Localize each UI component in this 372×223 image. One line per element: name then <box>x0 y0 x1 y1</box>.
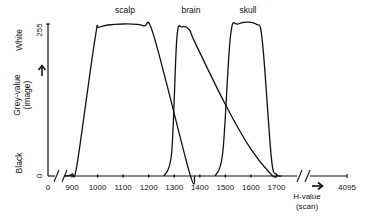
x-axis-title-line2: (scan) <box>296 202 319 211</box>
x-tick-label: 1600 <box>242 183 260 192</box>
x-tick-label: 1100 <box>115 183 133 192</box>
y-tick-0: 0 <box>35 173 44 178</box>
y-max-label: White <box>14 29 24 51</box>
curves <box>64 22 281 184</box>
y-min-label: Black <box>14 152 24 174</box>
chart: White Grey-value (image) Black 255 0 090… <box>0 0 372 223</box>
x-tick-label: 1500 <box>216 183 234 192</box>
y-tick-255: 255 <box>35 23 44 37</box>
curve-label-skull: skull <box>239 5 256 15</box>
x-tick-label: 1000 <box>89 183 107 192</box>
x-tick-label: 4095 <box>338 183 356 192</box>
axis-break-right <box>297 170 310 182</box>
curve-scalp <box>64 22 194 184</box>
curve-brain <box>164 26 277 177</box>
x-tick-label: 1700 <box>268 183 286 192</box>
x-tick-label: 1200 <box>140 183 158 192</box>
curve-skull <box>215 22 282 176</box>
right-arrow-icon <box>312 183 323 190</box>
curve-label-scalp: scalp <box>115 5 135 15</box>
curve-label-brain: brain <box>182 5 201 15</box>
curve-labels: scalpbrainskull <box>115 5 257 15</box>
up-arrow-icon <box>39 66 46 77</box>
y-axis-title-line2: (image) <box>22 80 32 109</box>
x-axis-title-line1: H-value <box>293 192 321 201</box>
x-tick-label: 0 <box>46 183 51 192</box>
y-axis-title-line1: Grey-value <box>12 74 22 116</box>
x-tick-labels: 0900100011001200130014001500160017004095 <box>46 183 357 192</box>
x-tick-label: 1300 <box>165 183 183 192</box>
x-tick-label: 900 <box>65 183 79 192</box>
